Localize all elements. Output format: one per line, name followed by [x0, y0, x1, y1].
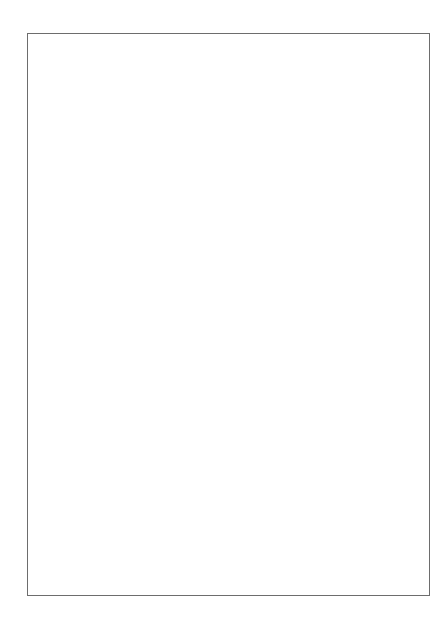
figure-border — [27, 33, 430, 596]
figure-container: 105310.50.30.119601970198019902000YearPe… — [0, 0, 448, 635]
